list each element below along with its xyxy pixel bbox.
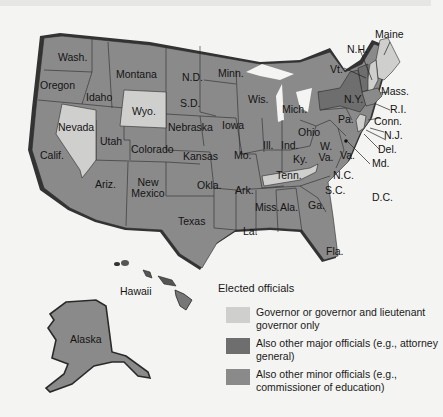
label-md: Md. <box>372 158 390 169</box>
label-texas: Texas <box>178 216 205 227</box>
label-ohio: Ohio <box>298 127 320 138</box>
legend-label: Also other minor officials (e.g., commis… <box>256 368 443 394</box>
label-ny: N.Y. <box>344 94 363 105</box>
label-calif: Calif. <box>40 150 64 161</box>
label-oregon: Oregon <box>40 80 75 91</box>
label-alaska: Alaska <box>70 334 102 345</box>
label-mo: Mo. <box>234 150 252 161</box>
label-dc: D.C. <box>372 192 393 203</box>
label-utah: Utah <box>100 136 122 147</box>
label-ill: Ill. <box>263 140 274 151</box>
legend-item-minor-officials: Also other minor officials (e.g., commis… <box>226 368 443 394</box>
label-maine: Maine <box>375 29 404 40</box>
label-new-mexico: New Mexico <box>126 177 170 199</box>
legend-swatch-dark <box>226 338 250 354</box>
label-la: La. <box>243 226 258 237</box>
label-nh: N.H. <box>347 44 368 55</box>
label-hawaii: Hawaii <box>120 286 152 297</box>
legend-title: Elected officials <box>218 282 294 294</box>
label-pa: Pa. <box>338 114 354 125</box>
label-mich: Mich. <box>282 104 307 115</box>
label-okla: Okla. <box>197 180 222 191</box>
legend-label: Also other major officials (e.g., attorn… <box>256 337 443 363</box>
label-nevada: Nevada <box>58 122 94 133</box>
label-ga: Ga. <box>308 200 325 211</box>
label-miss: Miss. <box>255 202 280 213</box>
label-nd: N.D. <box>182 72 203 83</box>
label-kansas: Kansas <box>183 151 218 162</box>
label-nc: N.C. <box>333 170 354 181</box>
label-va: Va. <box>340 150 355 161</box>
dc-marker <box>344 139 348 143</box>
legend-swatch-light <box>226 307 250 323</box>
label-ri: R.I. <box>390 104 406 115</box>
legend-item-governor-only: Governor or governor and lieutenant gove… <box>226 306 443 332</box>
label-ind: Ind. <box>281 140 299 151</box>
label-fla: Fla. <box>326 246 344 257</box>
label-ariz: Ariz. <box>95 179 116 190</box>
label-montana: Montana <box>116 69 157 80</box>
legend-item-major-officials: Also other major officials (e.g., attorn… <box>226 337 443 363</box>
label-wva: W. Va. <box>316 141 336 163</box>
label-wash: Wash. <box>58 52 87 63</box>
label-vt: Vt. <box>330 64 343 75</box>
label-idaho: Idaho <box>86 92 112 103</box>
label-conn: Conn. <box>374 116 402 127</box>
state-maine <box>376 38 400 80</box>
label-nebraska: Nebraska <box>168 122 213 133</box>
state-alaska <box>46 300 150 392</box>
legend-swatch-medium <box>226 369 250 385</box>
label-iowa: Iowa <box>222 120 244 131</box>
label-colorado: Colorado <box>131 144 174 155</box>
label-sc: S.C. <box>325 185 345 196</box>
label-minn: Minn. <box>218 68 244 79</box>
label-del: Del. <box>378 144 397 155</box>
label-nj: N.J. <box>384 130 403 141</box>
label-ark: Ark. <box>235 185 254 196</box>
label-mass: Mass. <box>381 86 409 97</box>
legend-label: Governor or governor and lieutenant gove… <box>256 306 443 332</box>
label-ala: Ala. <box>280 202 298 213</box>
label-tenn: Tenn. <box>276 170 302 181</box>
label-wis: Wis. <box>248 94 268 105</box>
label-ky: Ky. <box>293 154 307 165</box>
label-wyo: Wyo. <box>132 106 156 117</box>
label-sd: S.D. <box>180 98 200 109</box>
